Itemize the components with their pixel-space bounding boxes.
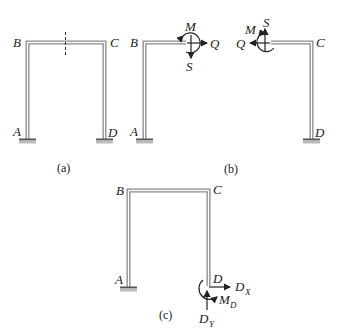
fixed-support-d (303, 140, 320, 144)
label-d: D (212, 271, 223, 286)
label-d: D (107, 125, 118, 140)
svg-text:D: D (234, 279, 245, 294)
fixed-support-a (136, 140, 153, 144)
label-m: M (184, 19, 197, 34)
svg-text:D: D (229, 300, 237, 310)
label-s: S (186, 59, 193, 74)
svg-text:Y: Y (209, 319, 215, 329)
label-m: M (244, 22, 257, 37)
caption-b: (b) (224, 162, 238, 176)
label-a: A (114, 272, 123, 287)
frame-a: B C A D (a) (12, 32, 119, 175)
svg-text:D: D (198, 311, 209, 326)
label-s: S (263, 15, 270, 30)
label-md: M D (218, 292, 237, 310)
fixed-support-a (19, 140, 36, 144)
frame-c: B C A D D X M D D Y (c) (114, 182, 251, 329)
label-b: B (116, 183, 124, 198)
internal-forces-left (183, 33, 207, 58)
fixed-support-d (96, 140, 113, 144)
label-c: C (316, 35, 325, 50)
label-a: A (12, 124, 21, 139)
label-q: Q (210, 36, 220, 51)
caption-a: (a) (57, 161, 70, 175)
label-c: C (110, 35, 119, 50)
frame-diagram: B C A D (a) B A M Q S (0, 0, 341, 335)
label-q: Q (236, 36, 246, 51)
label-dx: D X (234, 279, 251, 297)
caption-c: (c) (159, 308, 172, 322)
label-c: C (213, 182, 222, 197)
label-b: B (13, 35, 21, 50)
fixed-support-a (120, 288, 137, 292)
svg-text:X: X (244, 287, 251, 297)
label-d: D (314, 125, 325, 140)
label-a: A (129, 124, 138, 139)
frame-b-right: C D M Q S (b) (224, 15, 325, 176)
label-b: B (130, 35, 138, 50)
label-dy: D Y (198, 311, 215, 329)
frame-b-left: B A M Q S (129, 19, 220, 144)
